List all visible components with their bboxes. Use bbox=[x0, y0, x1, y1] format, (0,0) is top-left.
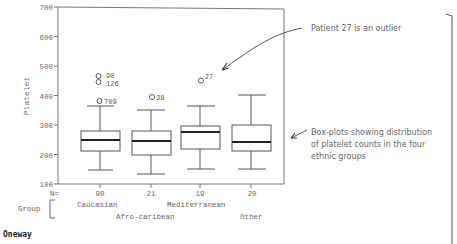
y-tick-label: 200 bbox=[39, 152, 53, 160]
y-tick-label: 400 bbox=[39, 93, 53, 101]
outlier-label: 38 bbox=[156, 94, 164, 102]
n-value: 19 bbox=[195, 190, 204, 198]
box-caucasian bbox=[81, 74, 120, 171]
annotation-arrow-boxes bbox=[291, 130, 307, 138]
y-tick-label: 300 bbox=[39, 122, 53, 130]
category-label: Afro-caribean bbox=[116, 213, 175, 221]
outlier-label-27: 27 bbox=[205, 74, 213, 81]
y-tick-label: 500 bbox=[39, 63, 53, 71]
annotation-boxplots-line3: ethnic groups bbox=[311, 152, 366, 161]
n-value: 21 bbox=[146, 190, 156, 198]
box-afro-caribean bbox=[132, 95, 171, 175]
n-label: N= bbox=[50, 190, 60, 198]
outlier-label: 709 bbox=[104, 98, 117, 106]
section-heading-oneway: Oneway bbox=[3, 230, 32, 239]
annotation-arrow-27 bbox=[222, 28, 302, 70]
group-label: Group bbox=[18, 205, 41, 213]
y-tick-label: 100 bbox=[39, 181, 53, 189]
annotation-boxplots-line1: Box-plots showing distribution bbox=[311, 128, 432, 137]
category-label: Other bbox=[240, 213, 263, 221]
n-value: 20 bbox=[247, 190, 257, 198]
box-other bbox=[232, 95, 271, 169]
outlier-label: 126 bbox=[106, 80, 119, 88]
y-axis-label: Platelet bbox=[22, 77, 31, 115]
category-label: Caucasian bbox=[77, 201, 118, 209]
y-tick-label: 600 bbox=[39, 34, 53, 42]
box-mediterranean bbox=[181, 78, 220, 169]
annotation-outlier: Patient 27 is an outlier bbox=[311, 24, 402, 33]
y-tick-label: 700 bbox=[39, 4, 53, 12]
annotation-boxplots-line2: of platelet counts in the four bbox=[311, 140, 426, 149]
category-label: Mediterranean bbox=[167, 201, 226, 209]
boxplot-chart: 700 600 500 400 300 200 100 Platelet 90 … bbox=[0, 0, 457, 244]
right-bracket bbox=[446, 14, 452, 244]
y-axis-ticks bbox=[54, 7, 58, 184]
group-bracket bbox=[50, 200, 55, 218]
n-value: 90 bbox=[95, 190, 105, 198]
